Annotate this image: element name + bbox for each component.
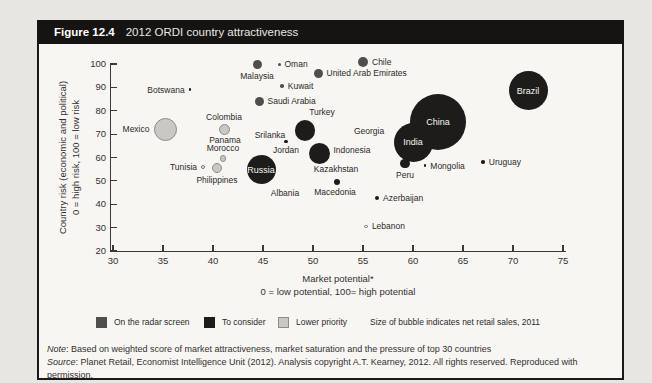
legend-item-radar: On the radar screen: [96, 316, 190, 328]
label-oman: Oman: [285, 59, 308, 69]
y-tick-100: [110, 63, 117, 64]
y-tick-50: [110, 180, 117, 181]
x-tick-55: [362, 245, 363, 252]
bubble-chile: [358, 57, 368, 67]
y-axis-title-line2: 0 = high risk, 100 = low risk: [69, 48, 82, 268]
y-tick-80: [110, 110, 117, 111]
label-malaysia: Malaysia: [240, 71, 274, 81]
label-turkey: Turkey: [309, 107, 335, 117]
y-tick-label-20: 20: [80, 246, 106, 256]
y-tick-90: [110, 87, 117, 88]
x-axis-title: Market potential* 0 = low potential, 100…: [261, 272, 416, 298]
x-tick-label-70: 70: [508, 256, 519, 266]
figure-title-bar: Figure 12.4 2012 ORDI country attractive…: [37, 20, 624, 44]
label-kuwait: Kuwait: [288, 81, 314, 91]
legend-label-lower: Lower priority: [296, 317, 347, 327]
x-tick-label-50: 50: [308, 256, 319, 266]
x-tick-75: [562, 245, 563, 252]
bubble-turkey: [295, 120, 316, 141]
label-lebanon: Lebanon: [372, 221, 405, 231]
bubble-mexico: [154, 118, 177, 141]
label-tunisia: Tunisia: [170, 162, 197, 172]
y-tick-70: [110, 134, 117, 135]
bubble-united-arab-emirates: [314, 69, 323, 78]
y-tick-label-80: 80: [80, 106, 106, 116]
label-colombia: Colombia: [206, 112, 242, 122]
label-botswana: Botswana: [147, 85, 184, 95]
bubble-malaysia: [253, 60, 262, 69]
x-tick-65: [462, 245, 463, 252]
note-label: Note: [47, 344, 66, 354]
y-axis-title: Country risk (economic and political) 0 …: [57, 48, 82, 268]
consider-swatch-icon: [204, 317, 215, 328]
bubble-morocco: [220, 155, 226, 161]
y-tick-40: [110, 204, 117, 205]
bubble-macedonia: [334, 179, 340, 185]
x-axis-title-line1: Market potential*: [261, 272, 416, 285]
x-tick-label-75: 75: [558, 256, 569, 266]
x-tick-70: [512, 245, 513, 252]
bubble-indonesia: [309, 143, 330, 164]
label-kazakhstan: Kazakhstan: [314, 164, 358, 174]
legend-label-consider: To consider: [222, 317, 265, 327]
x-tick-label-30: 30: [108, 256, 119, 266]
bubble-kuwait: [280, 84, 284, 88]
legend-item-lower: Lower priority: [278, 316, 347, 328]
x-axis-line: [110, 251, 566, 252]
label-china: China: [426, 117, 450, 127]
label-morocco: Morocco: [207, 143, 240, 153]
note-text: : Based on weighted score of market attr…: [66, 344, 491, 354]
label-mongolia: Mongolia: [430, 161, 465, 171]
label-brazil: Brazil: [517, 86, 540, 96]
label-srilanka: Srilanka: [255, 130, 286, 140]
x-tick-label-65: 65: [458, 256, 469, 266]
footnotes: Note: Based on weighted score of market …: [47, 343, 616, 382]
label-azerbaijan: Azerbaijan: [383, 193, 423, 203]
bubble-philippines: [212, 163, 222, 173]
y-tick-20: [110, 250, 117, 251]
lower-swatch-icon: [278, 317, 289, 328]
x-axis-title-line2: 0 = low potential, 100= high potential: [261, 285, 416, 298]
legend-size-note: Size of bubble indicates net retail sale…: [370, 317, 540, 327]
legend-item-consider: To consider: [204, 316, 265, 328]
bubble-peru: [400, 159, 410, 169]
x-tick-50: [312, 245, 313, 252]
y-tick-label-30: 30: [80, 223, 106, 233]
y-tick-label-50: 50: [80, 176, 106, 186]
bubble-saudi-arabia: [255, 97, 264, 106]
source-text: : Planet Retail, Economist Intelligence …: [47, 357, 578, 380]
figure-canvas: Figure 12.4 2012 ORDI country attractive…: [0, 0, 652, 383]
label-mexico: Mexico: [123, 124, 150, 134]
y-tick-60: [110, 157, 117, 158]
y-tick-label-60: 60: [80, 153, 106, 163]
x-tick-label-45: 45: [258, 256, 269, 266]
bubble-tunisia: [201, 165, 205, 169]
bubble-colombia: [219, 124, 230, 135]
label-indonesia: Indonesia: [334, 145, 371, 155]
x-tick-45: [262, 245, 263, 252]
bubble-oman: [278, 63, 281, 66]
x-tick-label-55: 55: [358, 256, 369, 266]
y-axis-title-line1: Country risk (economic and political): [57, 48, 70, 268]
label-macedonia: Macedonia: [314, 187, 356, 197]
label-india: India: [403, 137, 423, 147]
label-panama: Panama: [209, 135, 241, 145]
bubble-uruguay: [481, 160, 485, 164]
label-united-arab-emirates: United Arab Emirates: [327, 68, 407, 78]
label-philippines: Philippines: [196, 175, 237, 185]
label-russia: Russia: [247, 165, 275, 175]
x-tick-label-35: 35: [158, 256, 169, 266]
x-tick-label-60: 60: [408, 256, 419, 266]
label-georgia: Georgia: [354, 126, 384, 136]
y-tick-30: [110, 227, 117, 228]
label-chile: Chile: [372, 57, 391, 67]
x-tick-label-40: 40: [208, 256, 219, 266]
x-tick-60: [412, 245, 413, 252]
x-tick-40: [212, 245, 213, 252]
label-peru: Peru: [396, 170, 414, 180]
label-saudi-arabia: Saudi Arabia: [268, 96, 316, 106]
figure-number: Figure 12.4: [54, 26, 115, 38]
x-tick-35: [162, 245, 163, 252]
legend-label-radar: On the radar screen: [114, 317, 190, 327]
y-tick-label-90: 90: [80, 82, 106, 92]
